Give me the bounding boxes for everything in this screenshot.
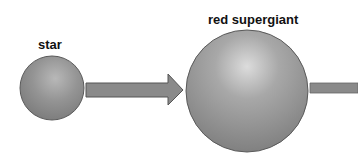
- star-sphere: [20, 56, 84, 120]
- arrow-continuation: [310, 83, 358, 93]
- red-supergiant-label: red supergiant: [208, 12, 298, 27]
- star-label: star: [38, 37, 62, 52]
- diagram-canvas: [0, 0, 358, 154]
- red-supergiant-sphere: [186, 30, 308, 152]
- arrow-star-to-supergiant: [86, 74, 183, 105]
